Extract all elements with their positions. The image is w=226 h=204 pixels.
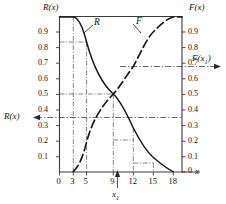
- ytick-left-6: 0.3: [38, 121, 48, 130]
- xtick-2: 5: [84, 176, 88, 186]
- curve-label-r: R: [94, 17, 100, 27]
- xtick-3: 9: [110, 176, 114, 186]
- ytick-left-5: 0.4: [38, 105, 48, 114]
- annotation-fx1-base: F(x: [192, 53, 205, 63]
- ytick-right-4: 0.5: [188, 89, 198, 98]
- ytick-right-7: 0.2: [188, 136, 198, 145]
- ytick-left-4: 0.5: [38, 89, 48, 98]
- ytick-left-0: 0.9: [38, 27, 48, 36]
- ytick-right-8: 0.1: [188, 152, 198, 161]
- xtick-5: 15: [149, 176, 158, 186]
- ytick-right-6: 0.3: [188, 121, 198, 130]
- axis-x-title: x: [195, 166, 199, 176]
- ytick-left-1: 0.8: [38, 43, 48, 52]
- ytick-right-5: 0.4: [188, 105, 198, 114]
- annotation-x1-label: x1: [112, 189, 119, 201]
- ytick-left-7: 0.2: [38, 136, 48, 145]
- xtick-1: 3: [70, 176, 74, 186]
- ytick-left-3: 0.6: [38, 74, 48, 83]
- axis-right-title: F(x): [189, 2, 205, 12]
- ytick-right-1: 0.8: [188, 43, 198, 52]
- xtick-6: 18: [169, 176, 178, 186]
- annotation-fx1-tail: ): [208, 53, 211, 63]
- axis-left-title: R(x): [43, 2, 59, 12]
- curve-label-f: F: [136, 16, 142, 26]
- ytick-right-3: 0.6: [188, 74, 198, 83]
- xtick-4: 12: [129, 176, 138, 186]
- ytick-right-0: 0.9: [188, 27, 198, 36]
- annotation-fx1-label: F(x1): [192, 53, 211, 65]
- annotation-x1-sub: 1: [116, 194, 119, 201]
- annotation-rx-label: R(x): [4, 111, 20, 121]
- ytick-right-9: 0: [188, 166, 192, 175]
- ytick-left-2: 0.7: [38, 58, 48, 67]
- ytick-left-8: 0.1: [38, 152, 48, 161]
- xtick-0: 0: [57, 176, 61, 186]
